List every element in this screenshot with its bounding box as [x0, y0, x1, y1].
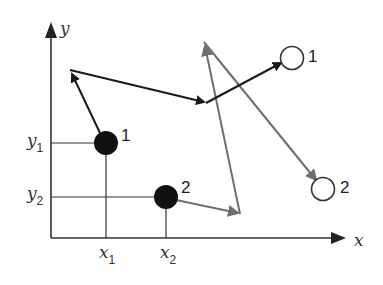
path2-segment-2 — [205, 46, 240, 214]
particle-2-final — [312, 178, 335, 201]
path1-segment-3 — [206, 63, 281, 103]
particle-1-final — [281, 47, 304, 70]
path2-segment-1 — [176, 200, 238, 213]
particle-2-initial-label: 2 — [181, 178, 190, 197]
trajectory-diagram: y x y1 y2 x1 x2 1 2 — [0, 0, 383, 285]
y2-label: y2 — [26, 183, 44, 208]
y-axis-arrow-icon — [45, 22, 57, 38]
x-axis-label: x — [354, 230, 364, 250]
x1-label: x1 — [99, 242, 116, 267]
y-axis-label: y — [59, 18, 70, 38]
y1-label: y1 — [26, 130, 44, 155]
y-tick-labels: y1 y2 — [26, 130, 44, 208]
particle-2-initial — [154, 185, 178, 209]
x-tick-labels: x1 x2 — [99, 242, 177, 267]
particle-1-initial-label: 1 — [121, 126, 130, 145]
path1-segment-1 — [72, 74, 100, 133]
path1-segment-2 — [70, 70, 204, 102]
x-axis-arrow-icon — [331, 232, 346, 244]
particle-1-initial — [94, 131, 118, 155]
particle-1-final-label: 1 — [308, 47, 317, 66]
x2-label: x2 — [160, 242, 177, 267]
particle-2-final-label: 2 — [340, 178, 349, 197]
guide-lines — [51, 143, 166, 238]
